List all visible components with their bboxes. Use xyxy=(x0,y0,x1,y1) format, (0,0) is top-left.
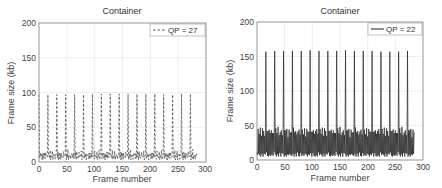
x-axis-ticks: 0 50 100 150 200 250 300 xyxy=(37,164,213,174)
y-tick: 50 xyxy=(245,121,255,131)
x-axis-ticks: 0 50 100 150 200 250 300 xyxy=(255,162,431,172)
chart-left-svg: Container 0 50 100 150 200 0 50 100 150 … xyxy=(0,0,221,188)
chart-left-qp27: Container 0 50 100 150 200 0 50 100 150 … xyxy=(0,0,221,188)
x-tick: 100 xyxy=(305,162,319,172)
x-tick: 250 xyxy=(388,162,402,172)
plot-series xyxy=(257,50,414,156)
x-tick: 100 xyxy=(87,164,101,174)
x-tick: 50 xyxy=(62,164,72,174)
x-axis-label: Frame number xyxy=(92,174,151,184)
x-tick: 150 xyxy=(333,162,347,172)
y-tick: 100 xyxy=(240,86,254,96)
grid xyxy=(39,23,206,162)
y-tick: 200 xyxy=(240,17,254,27)
y-tick: 0 xyxy=(31,157,36,167)
y-tick: 50 xyxy=(27,122,37,132)
x-tick: 300 xyxy=(416,162,430,172)
chart-title: Container xyxy=(320,6,359,16)
chart-right-svg: Container 0 50 100 150 200 0 50 100 150 … xyxy=(221,0,442,188)
x-tick: 0 xyxy=(37,164,42,174)
x-tick: 250 xyxy=(171,164,185,174)
x-tick: 200 xyxy=(143,164,157,174)
legend: QP = 27 xyxy=(150,24,205,36)
x-axis-label: Frame number xyxy=(310,173,369,183)
chart-title: Container xyxy=(102,6,141,16)
y-tick: 150 xyxy=(22,53,36,63)
y-axis-label: Frame size (kb) xyxy=(225,60,235,123)
plot-series xyxy=(39,94,197,160)
y-axis-ticks: 0 50 100 150 200 xyxy=(22,18,36,167)
legend: QP = 22 xyxy=(368,23,422,35)
y-axis-ticks: 0 50 100 150 200 xyxy=(240,17,254,165)
x-tick: 50 xyxy=(280,162,290,172)
y-tick: 0 xyxy=(249,155,254,165)
y-tick: 100 xyxy=(22,88,36,98)
legend-label: QP = 22 xyxy=(386,25,416,34)
chart-right-qp22: Container 0 50 100 150 200 0 50 100 150 … xyxy=(221,0,442,188)
x-tick: 0 xyxy=(255,162,260,172)
y-tick: 150 xyxy=(240,52,254,62)
legend-label: QP = 27 xyxy=(168,26,198,35)
x-tick: 300 xyxy=(198,164,212,174)
y-tick: 200 xyxy=(22,18,36,28)
y-axis-label: Frame size (kb) xyxy=(6,62,16,125)
x-tick: 150 xyxy=(115,164,129,174)
x-tick: 200 xyxy=(361,162,375,172)
